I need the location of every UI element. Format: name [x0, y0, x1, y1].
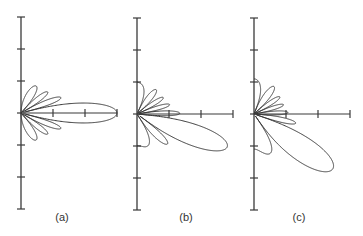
panel-b-label: (b)	[179, 211, 192, 223]
panel-c-label: (c)	[293, 211, 306, 223]
radiation-pattern-figure	[0, 0, 363, 236]
panel-c-plot	[250, 18, 350, 210]
panel-a-plot	[17, 17, 117, 209]
panel-a-label: (a)	[55, 211, 68, 223]
panel-b-plot	[133, 18, 233, 210]
